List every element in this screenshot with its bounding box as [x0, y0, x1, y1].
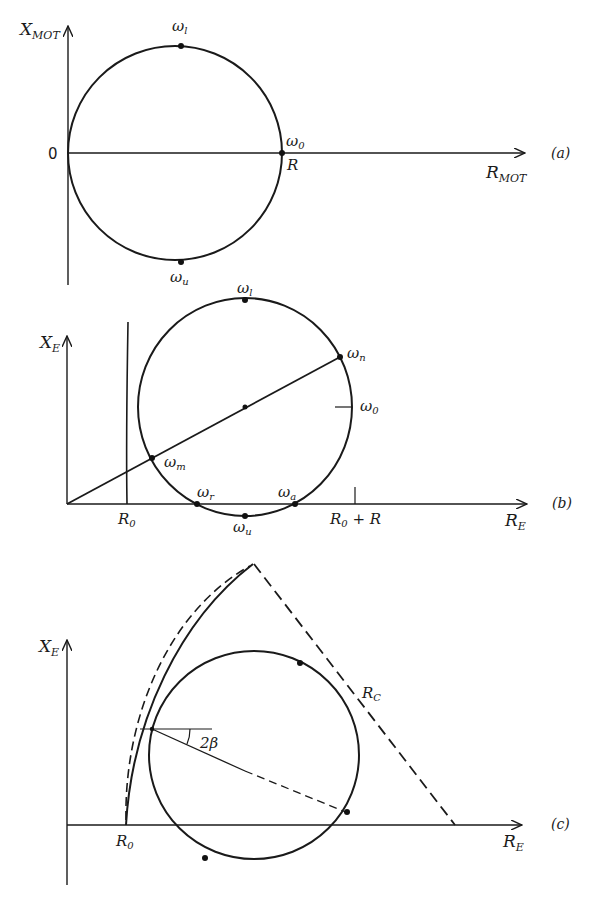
- panel-c: XE 2β RC R0 RE (c): [37, 564, 570, 885]
- y-axis-label-c: XE: [37, 636, 59, 659]
- label-omega-m-b: ωm: [164, 453, 186, 472]
- r0-label-c: R0: [115, 832, 134, 851]
- point-omega-n-b: [337, 354, 343, 360]
- point-omega-m-b: [149, 455, 155, 461]
- solid-locus-c: [126, 564, 253, 825]
- chord-solid-c: [152, 729, 245, 771]
- tangent-point-c: [150, 727, 154, 731]
- panel-tag-a: (a): [551, 145, 570, 161]
- diameter-line-b: [67, 357, 340, 504]
- panel-tag-c: (c): [551, 816, 570, 832]
- panel-a: XMOT 0 ωl ωu ω0 R RMOT (a): [18, 17, 570, 287]
- point-bottom-c: [202, 855, 208, 861]
- angle-arc-c: [187, 729, 190, 744]
- y-axis-label-a: XMOT: [18, 19, 61, 42]
- label-omega-u-b: ωu: [233, 518, 252, 537]
- label-omega-r-b: ωr: [197, 483, 215, 502]
- label-omega-0-b: ω0: [360, 397, 379, 416]
- x-axis-label-b: RE: [504, 510, 526, 533]
- chord-dashed-c: [245, 771, 348, 813]
- angle-label-c: 2β: [199, 734, 219, 752]
- center-point-b: [243, 405, 248, 410]
- label-omega-0-a: ω0: [286, 132, 305, 151]
- label-omega-l-a: ωl: [172, 17, 187, 36]
- impedance-circle-diagrams: XMOT 0 ωl ωu ω0 R RMOT (a) XE ωl ωu ωn ω…: [0, 0, 599, 908]
- label-omega-l-b: ωl: [237, 279, 252, 298]
- panel-b: XE ωl ωu ωn ω0 ωm ωr ωa R0 R0 + R RE (b): [38, 279, 572, 537]
- point-omega-u-a: [178, 259, 184, 265]
- impedance-circle-c: [149, 651, 359, 859]
- label-omega-a-b: ωa: [278, 483, 296, 502]
- rc-label-c: RC: [361, 684, 381, 703]
- x-axis-label-c: RE: [502, 831, 524, 854]
- origin-label-a: 0: [48, 145, 58, 163]
- panel-tag-b: (b): [552, 495, 572, 511]
- y-axis-label-b: XE: [38, 332, 60, 355]
- label-r-a: R: [286, 156, 298, 174]
- label-omega-n-b: ωn: [347, 344, 366, 363]
- label-omega-u-a: ωu: [170, 268, 189, 287]
- r0-curve-b: [127, 322, 128, 504]
- point-top-c: [297, 660, 303, 666]
- point-omega-0-a: [279, 150, 285, 156]
- point-omega-l-a: [178, 43, 184, 49]
- tick-label-r0-plus-r-b: R0 + R: [329, 510, 381, 529]
- point-omega-r-b: [194, 501, 200, 507]
- point-omega-l-b: [242, 297, 248, 303]
- dashed-locus-c: [126, 566, 250, 820]
- x-axis-label-a: RMOT: [485, 162, 528, 185]
- point-right-c: [344, 809, 350, 815]
- tick-label-r0-b: R0: [117, 510, 136, 529]
